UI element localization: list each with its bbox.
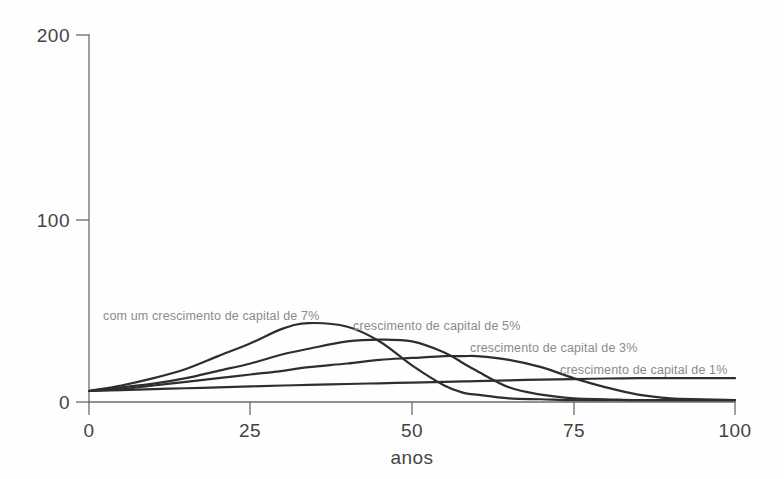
x-tick-label-0: 0 [83,420,94,441]
y-tick-label-200: 200 [37,25,70,46]
line-chart: 200 100 0 0 25 50 75 100 anos com um cre… [0,0,784,479]
series-label-5pct: crescimento de capital de 5% [353,319,520,333]
x-tick-label-75: 75 [563,420,585,441]
x-tick-label-25: 25 [239,420,261,441]
y-tick-label-100: 100 [37,210,70,231]
x-axis-title: anos [391,447,434,468]
series-label-3pct: crescimento de capital de 3% [470,341,637,355]
series-group [89,323,735,400]
y-tick-label-0: 0 [59,392,70,413]
x-tick-label-50: 50 [401,420,423,441]
series-label-7pct: com um crescimento de capital de 7% [103,309,319,323]
series-label-1pct: crescimento de capital de 1% [560,363,727,377]
curve-series-3 [89,378,735,391]
chart-container: 200 100 0 0 25 50 75 100 anos com um cre… [0,0,784,479]
x-tick-label-100: 100 [718,420,751,441]
